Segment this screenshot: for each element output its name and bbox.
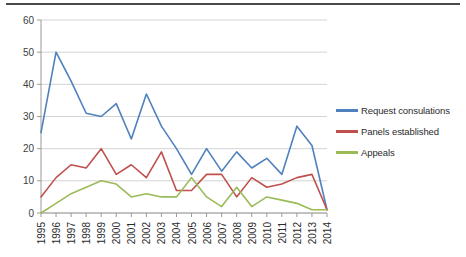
y-tick-label: 40 xyxy=(23,79,35,90)
x-tick-label: 2003 xyxy=(156,222,167,245)
x-tick-label: 2004 xyxy=(171,222,182,245)
y-tick-label: 50 xyxy=(23,47,35,58)
x-tick-label: 2007 xyxy=(217,222,228,245)
y-tick-label: 60 xyxy=(23,15,35,26)
chart-legend: Request consulations Panels established … xyxy=(336,100,466,163)
legend-swatch-request-consulations xyxy=(336,109,358,112)
y-tick-label: 0 xyxy=(28,208,34,219)
legend-label-panels-established: Panels established xyxy=(361,126,439,137)
x-tick-label: 2002 xyxy=(141,222,152,245)
x-tick-label: 1998 xyxy=(81,222,92,245)
x-tick-label: 2001 xyxy=(126,222,137,245)
line-chart: 0102030405060199519961997199819992000200… xyxy=(0,0,466,257)
legend-swatch-panels-established xyxy=(336,130,358,133)
x-tick-label: 2006 xyxy=(202,222,213,245)
y-tick-label: 20 xyxy=(23,143,35,154)
x-tick-label: 2010 xyxy=(262,222,273,245)
y-tick-label: 10 xyxy=(23,175,35,186)
legend-label-appeals: Appeals xyxy=(361,147,395,158)
x-tick-label: 1995 xyxy=(36,222,47,245)
legend-item-panels-established[interactable]: Panels established xyxy=(336,121,466,142)
legend-item-appeals[interactable]: Appeals xyxy=(336,142,466,163)
legend-label-request-consulations: Request consulations xyxy=(361,105,450,116)
x-tick-label: 2000 xyxy=(111,222,122,245)
y-tick-label: 30 xyxy=(23,111,35,122)
x-tick-label: 2011 xyxy=(277,222,288,244)
x-tick-label: 2008 xyxy=(232,222,243,245)
legend-swatch-appeals xyxy=(336,151,358,154)
x-tick-label: 1997 xyxy=(66,222,77,245)
x-tick-label: 2014 xyxy=(322,222,333,245)
legend-item-request-consulations[interactable]: Request consulations xyxy=(336,100,466,121)
x-tick-label: 2009 xyxy=(247,222,258,245)
x-tick-label: 1996 xyxy=(51,222,62,245)
x-tick-label: 2005 xyxy=(187,222,198,245)
x-tick-label: 2012 xyxy=(292,222,303,245)
x-tick-label: 1999 xyxy=(96,222,107,245)
x-tick-label: 2013 xyxy=(307,222,318,245)
